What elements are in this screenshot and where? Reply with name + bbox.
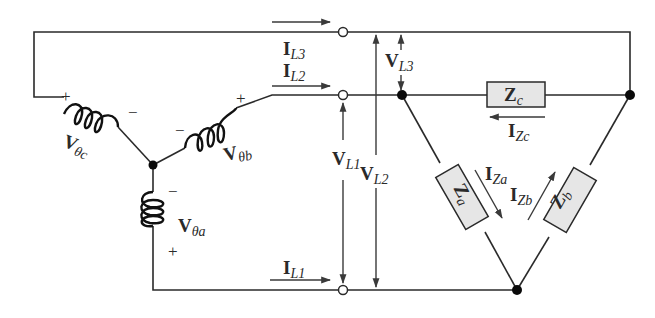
sign-minus-b: −: [175, 121, 185, 140]
sign-plus-c: +: [61, 87, 71, 106]
coil-phase-c: [64, 104, 118, 132]
label-v-l3: VL3: [385, 50, 414, 74]
delta-node-right: [625, 90, 635, 100]
sign-minus-a: −: [168, 182, 178, 201]
label-v-theta-a: Vθa: [178, 215, 206, 239]
sign-minus-c: −: [128, 103, 138, 122]
sign-plus-a: +: [168, 242, 178, 261]
label-v-theta-c: Vθc: [59, 130, 94, 163]
phase-b-lead: [153, 148, 185, 165]
line-l1-wire: [153, 226, 517, 290]
coil-phase-a: [141, 192, 163, 226]
label-i-zc: IZc: [508, 120, 530, 144]
terminal-l3: [339, 28, 348, 37]
circuit-diagram: IL3 IL2 IL1 VL1 VL2 VL3 Vθa Vθb Vθc + − …: [0, 0, 655, 318]
delta-zb-upper: [590, 95, 630, 165]
label-i-l3: IL3: [283, 38, 305, 62]
delta-node-left: [397, 90, 407, 100]
terminal-l1: [339, 286, 348, 295]
label-i-za: IZa: [485, 163, 507, 187]
delta-node-bottom: [512, 285, 522, 295]
delta-za-lower: [485, 232, 517, 290]
terminal-l2: [339, 91, 348, 100]
label-v-l1: VL1: [332, 148, 361, 172]
label-i-l2: IL2: [283, 60, 305, 84]
label-i-zb: IZb: [510, 184, 532, 208]
delta-zb-lower: [517, 237, 549, 290]
line-l2-wire: [236, 95, 630, 108]
label-v-theta-b: Vθb: [221, 139, 253, 168]
neutral-node: [149, 161, 158, 170]
delta-za-upper: [402, 95, 440, 163]
label-v-l2: VL2: [360, 163, 389, 187]
label-i-l1: IL1: [283, 257, 305, 281]
phase-c-lead: [118, 127, 153, 165]
sign-plus-b: +: [236, 89, 246, 108]
